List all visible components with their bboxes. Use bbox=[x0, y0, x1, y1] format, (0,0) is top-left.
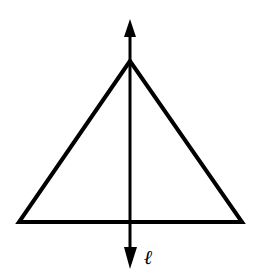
line-label: ℓ bbox=[144, 247, 153, 267]
arrowhead-down-icon bbox=[124, 247, 137, 269]
arrowhead-up-icon bbox=[124, 19, 136, 37]
triangle-symmetry-diagram bbox=[0, 0, 261, 274]
